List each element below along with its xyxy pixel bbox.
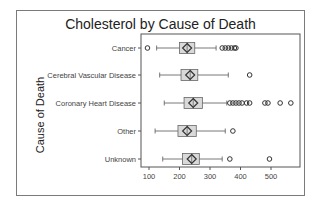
outlier-point bbox=[145, 46, 150, 51]
outlier-point bbox=[267, 157, 272, 162]
outlier-point bbox=[228, 157, 233, 162]
category-label: Cancer bbox=[112, 44, 137, 53]
outlier-point bbox=[266, 101, 271, 106]
boxplot-area: 100200300400500CancerCerebral Vascular D… bbox=[0, 0, 318, 208]
x-tick-label: 200 bbox=[173, 172, 186, 181]
category-label: Other bbox=[117, 127, 136, 136]
x-tick-label: 100 bbox=[143, 172, 156, 181]
category-label: Cerebral Vascular Disease bbox=[47, 71, 136, 80]
plot-border bbox=[141, 34, 300, 167]
category-label: Coronary Heart Disease bbox=[56, 99, 136, 108]
x-tick-label: 300 bbox=[204, 172, 217, 181]
outlier-point bbox=[240, 101, 245, 106]
x-tick-label: 500 bbox=[265, 172, 278, 181]
outlier-point bbox=[247, 101, 252, 106]
x-tick-label: 400 bbox=[234, 172, 247, 181]
outlier-point bbox=[289, 101, 294, 106]
outlier-point bbox=[278, 101, 283, 106]
outlier-point bbox=[231, 129, 236, 134]
outlier-point bbox=[247, 73, 252, 78]
category-label: Unknown bbox=[105, 155, 136, 164]
